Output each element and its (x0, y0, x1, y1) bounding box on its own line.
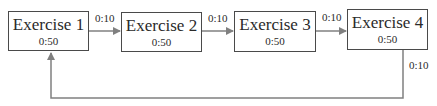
rest-label-4-to-1: 0:10 (409, 59, 429, 71)
exercise-label: Exercise 1 (9, 15, 88, 35)
exercise-duration: 0:50 (235, 35, 315, 48)
exercise-label: Exercise 3 (235, 15, 315, 35)
rest-label-2-to-3: 0:10 (208, 12, 228, 24)
circuit-diagram: Exercise 1 0:50 Exercise 2 0:50 Exercise… (0, 0, 437, 106)
arrow-4-to-1-loop (51, 50, 403, 98)
exercise-duration: 0:50 (9, 35, 88, 48)
exercise-duration: 0:50 (122, 36, 201, 49)
exercise-box-4: Exercise 4 0:50 (347, 9, 428, 50)
exercise-label: Exercise 4 (348, 13, 427, 33)
exercise-box-3: Exercise 3 0:50 (234, 11, 316, 52)
exercise-box-1: Exercise 1 0:50 (8, 11, 89, 51)
exercise-box-2: Exercise 2 0:50 (121, 12, 202, 52)
exercise-duration: 0:50 (348, 33, 427, 46)
rest-label-1-to-2: 0:10 (95, 12, 115, 24)
rest-label-3-to-4: 0:10 (322, 11, 342, 23)
exercise-label: Exercise 2 (122, 16, 201, 36)
